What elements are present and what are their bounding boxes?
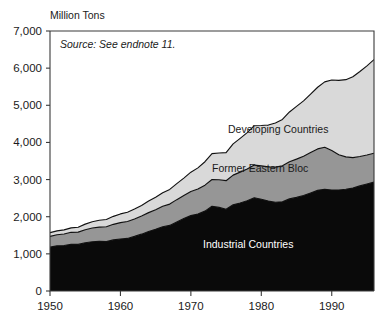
- x-tick-label: 1980: [249, 300, 275, 312]
- chart-figure: Million Tons 01,0002,0003,0004,0005,0006…: [0, 0, 387, 322]
- x-tick-label: 1950: [37, 300, 63, 312]
- y-tick-label: 6,000: [13, 62, 42, 74]
- series-label-industrial-countries: Industrial Countries: [203, 238, 293, 250]
- y-tick-label: 3,000: [13, 174, 42, 186]
- y-tick-label: 5,000: [13, 99, 42, 111]
- stacked-area-chart: Million Tons 01,0002,0003,0004,0005,0006…: [0, 0, 387, 322]
- y-tick-label: 4,000: [13, 136, 42, 148]
- y-tick-label: 0: [36, 285, 42, 297]
- series-label-former-eastern-bloc: Former Eastern Bloc: [212, 162, 308, 174]
- y-tick-label: 1,000: [13, 248, 42, 260]
- series-label-developing-countries: Developing Countries: [228, 123, 328, 135]
- x-tick-label: 1960: [108, 300, 134, 312]
- y-tick-label: 7,000: [13, 25, 42, 37]
- x-tick-label: 1990: [319, 300, 345, 312]
- y-tick-label: 2,000: [13, 211, 42, 223]
- y-axis-title: Million Tons: [50, 9, 105, 21]
- source-note: Source: See endnote 11.: [60, 38, 175, 50]
- x-tick-label: 1970: [178, 300, 204, 312]
